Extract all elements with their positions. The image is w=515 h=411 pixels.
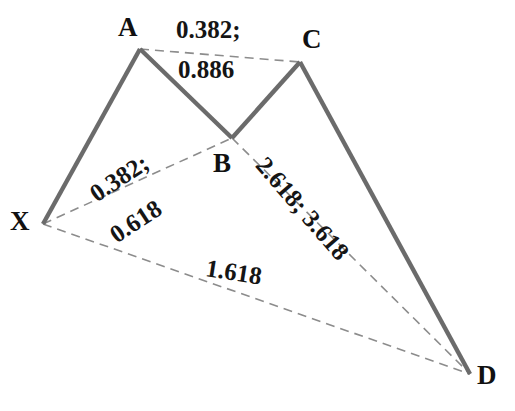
point-label-b: B [213,150,231,177]
dashed-segments-group [43,49,470,374]
pattern-canvas [0,0,515,411]
point-label-d: D [477,362,497,389]
dashed-segment-xd [43,224,470,374]
ratio-label-ac-lower: 0.886 [178,57,234,82]
point-label-x: X [10,208,30,235]
solid-segments-group [43,49,470,374]
harmonic-pattern-diagram: XABCD0.382;0.8860.382;0.6182.618; 3.6181… [0,0,515,411]
solid-segment-bc [232,62,300,138]
ratio-label-ac-upper: 0.382; [176,17,241,42]
solid-segment-xa [43,49,140,224]
point-label-c: C [302,26,322,53]
point-label-a: A [118,14,138,41]
